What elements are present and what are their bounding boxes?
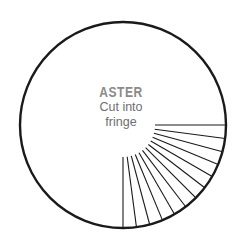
paper-flower-template-diagram [0, 0, 242, 245]
diagram-canvas: ASTER Cut into fringe [0, 0, 242, 245]
